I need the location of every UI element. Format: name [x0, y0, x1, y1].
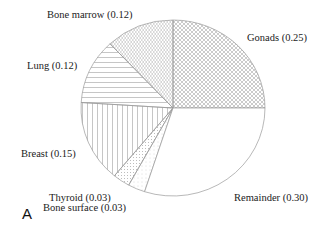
label-gonads: Gonads (0.25) — [247, 33, 307, 44]
label-bone-surface: Bone surface (0.03) — [43, 203, 126, 214]
panel-label: A — [22, 205, 32, 222]
label-breast: Breast (0.15) — [21, 149, 76, 160]
label-remainder: Remainder (0.30) — [234, 193, 308, 204]
label-bone-marrow: Bone marrow (0.12) — [47, 10, 132, 21]
label-lung: Lung (0.12) — [27, 61, 77, 72]
